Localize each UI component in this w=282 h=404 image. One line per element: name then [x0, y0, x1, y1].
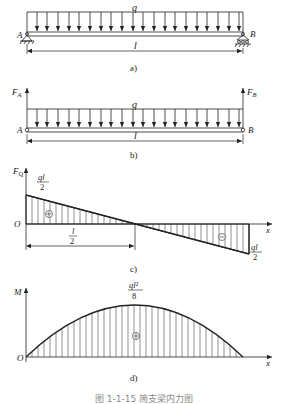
svg-text:ql: ql: [38, 172, 45, 182]
support-label-a: A: [16, 30, 23, 40]
reaction-label-fa: FA: [11, 87, 22, 98]
svg-text:l: l: [72, 226, 75, 236]
panel-label-c: c): [130, 264, 137, 274]
panel-label-d: d): [130, 373, 138, 383]
node-label-a: A: [16, 125, 23, 135]
peak-moment-value: ql² 8: [128, 280, 143, 301]
svg-text:ql: ql: [251, 242, 258, 252]
support-label-b: B: [250, 29, 256, 39]
left-shear-value: ql 2: [37, 172, 49, 192]
origin-label: O: [14, 219, 21, 229]
svg-text:ql²: ql²: [129, 280, 139, 290]
roller-support-b: [235, 33, 251, 48]
half-span-label: l 2: [69, 226, 77, 246]
svg-text:8: 8: [132, 291, 136, 301]
panel-label-a: a): [130, 63, 137, 73]
origin-label: O: [17, 353, 24, 363]
svg-text:2: 2: [40, 182, 44, 192]
beam: [27, 32, 243, 36]
panel-label-b: b): [130, 150, 138, 160]
svg-text:2: 2: [253, 252, 257, 262]
shear-axis-label: FQ: [12, 166, 24, 177]
right-shear-value: ql 2: [250, 242, 262, 262]
panel-a-loaded-beam: q A B: [16, 2, 256, 73]
load-label-q: q: [132, 99, 137, 110]
node-label-b: B: [248, 125, 254, 135]
load-label-q: q: [132, 2, 137, 13]
moment-axis-label: M: [13, 287, 22, 297]
panel-d-moment-diagram: M O x ql² 8 d): [13, 280, 272, 383]
svg-text:2: 2: [70, 236, 74, 246]
reaction-label-fb: FB: [246, 87, 257, 98]
figure-caption: 图 1-1-15 简支梁内力图: [95, 393, 193, 404]
beam-diagram-figure: q A B: [0, 0, 282, 404]
span-label: l: [134, 130, 137, 141]
span-label: l: [134, 40, 137, 51]
distributed-load: [27, 12, 243, 32]
panel-b-free-body: FA FB q A B l b): [11, 87, 257, 160]
x-axis-label: x: [265, 225, 270, 235]
half-span-dimension: [26, 224, 135, 250]
panel-c-shear-diagram: FQ O x ql 2 ql 2 l 2 c): [12, 166, 272, 274]
moment-curve: [26, 305, 243, 357]
x-axis-label: x: [265, 358, 270, 368]
